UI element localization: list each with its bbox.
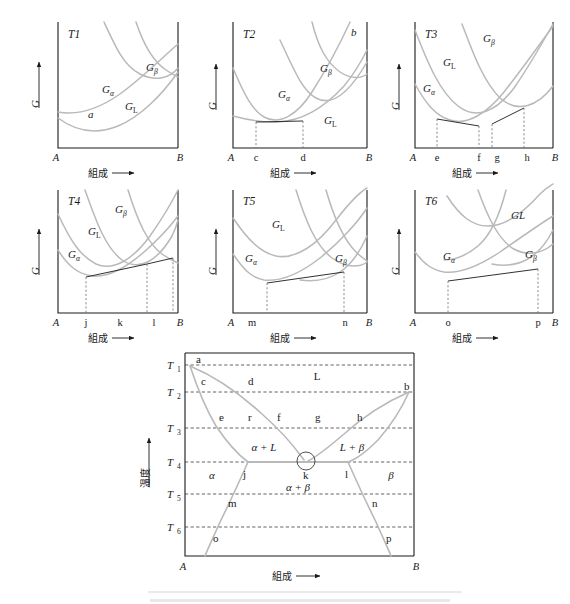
svg-text:α: α (451, 256, 456, 265)
caption-cropped (148, 592, 462, 602)
panel-T6-label-Galpha: G α (443, 250, 456, 265)
pd-yaxis-label: 温度 (139, 468, 151, 488)
panel-T2-label-GL: G L (324, 114, 337, 129)
panel-T4-common-tangent-left (86, 264, 147, 277)
panel-T3-tick-e: e (435, 152, 440, 163)
panel-T6-tick-o: o (445, 317, 450, 328)
panel-T6-endpoint-B: B (552, 317, 559, 328)
panel-T6-tick-p: p (535, 317, 540, 328)
panel-T5-endpoint-A: A (227, 317, 235, 328)
region-liquid: L (314, 370, 321, 382)
svg-text:T: T (167, 456, 174, 468)
panel-T1-xaxis-label: 組成 (88, 167, 134, 179)
panel-T3-gaxis: G (389, 64, 401, 110)
svg-text:β: β (327, 68, 332, 77)
panel-T1-gaxis-label: G (29, 100, 41, 108)
svg-text:G: G (68, 248, 76, 260)
panel-T6-endpoint-A: A (409, 317, 417, 328)
svg-text:G: G (483, 32, 491, 44)
svg-text:α: α (253, 258, 258, 267)
panel-T2-xaxis-label: 組成 (270, 167, 316, 179)
svg-text:α: α (110, 89, 115, 98)
svg-text:L: L (133, 106, 138, 115)
pd-point-r: r (248, 411, 252, 423)
panel-T6-label-Gbeta: G β (525, 248, 537, 263)
solvus-right (348, 462, 391, 556)
svg-text:2: 2 (177, 392, 181, 401)
svg-text:α: α (76, 254, 81, 263)
svg-text:4: 4 (177, 462, 181, 471)
panel-T2-tick-d: d (300, 152, 306, 163)
panel-T4-gaxis-label: G (29, 267, 41, 275)
svg-text:組成: 組成 (272, 570, 292, 582)
panel-T2-curve-GL (233, 50, 367, 122)
svg-text:G: G (320, 62, 328, 74)
pd-temp-tick-T3: T 3 (167, 422, 181, 437)
pd-point-n: n (372, 497, 378, 509)
svg-text:G: G (245, 252, 253, 264)
pd-point-j: j (242, 468, 246, 480)
svg-text:L: L (96, 231, 101, 240)
panel-T5: G T5 G L G α G β A m n B 組成 (206, 188, 373, 344)
panel-T3-label-GL: G L (443, 56, 456, 71)
pd-point-f: f (277, 411, 281, 423)
panel-T2: G T2 b G α G β G L A c d B 組成 (206, 22, 373, 179)
pd-point-e: e (219, 411, 224, 423)
panel-T6-curve-Gbeta (492, 230, 553, 265)
svg-text:β: β (532, 254, 537, 263)
panel-T5-label-Gbeta: G β (335, 252, 347, 267)
svg-text:1: 1 (177, 365, 181, 374)
region-liquid-plus-beta: L + β (339, 441, 365, 453)
svg-text:G: G (115, 203, 123, 215)
panel-T6-curve-Galpha (415, 216, 553, 272)
panel-T4-title: T4 (68, 195, 80, 207)
panel-T3-endpoint-B: B (552, 152, 559, 163)
panel-T3-tangent-alpha-L (437, 119, 479, 126)
svg-text:L: L (451, 62, 456, 71)
panel-T3-label-Gbeta: G β (483, 32, 495, 47)
svg-text:L: L (280, 224, 285, 233)
svg-text:T: T (167, 386, 174, 398)
svg-text:G: G (335, 252, 343, 264)
panel-T3-tick-g: g (494, 152, 500, 163)
svg-text:組成: 組成 (452, 167, 472, 179)
panel-T1-title: T1 (68, 28, 80, 40)
pd-temp-tick-T4: T 4 (167, 456, 181, 471)
svg-text:L: L (332, 120, 337, 129)
panel-T4-tick-k: k (117, 317, 123, 328)
panel-T3-tangent-L-beta (492, 108, 524, 124)
panel-T3-gaxis-label: G (389, 102, 401, 110)
svg-text:組成: 組成 (452, 332, 472, 344)
eutectic-point-marker (297, 452, 315, 470)
pd-point-a: a (196, 353, 201, 365)
panel-T6-gaxis: G (389, 229, 401, 275)
pd-yaxis: 温度 (139, 438, 151, 488)
svg-text:G: G (443, 56, 451, 68)
phase-diagram: T 1 T 2 T 3 T 4 T 5 T 6 温度 a b c (139, 353, 420, 582)
panel-T1-endpoint-B: B (177, 152, 184, 163)
panel-T1-label-Galpha: G α (102, 83, 115, 98)
svg-text:β: β (122, 209, 127, 218)
panel-T5-gaxis: G (206, 229, 218, 275)
pd-endpoint-A: A (179, 561, 187, 572)
svg-text:組成: 組成 (270, 332, 290, 344)
figure-root: G T1 a G α G β G L A B 組成 (0, 0, 570, 604)
panel-T6-title: T6 (425, 195, 437, 207)
panel-T5-curve-Galpha (233, 208, 367, 280)
pd-point-c: c (201, 375, 206, 387)
panel-T5-xaxis-label: 組成 (270, 332, 316, 344)
panel-T5-label-Galpha: G α (245, 252, 258, 267)
panel-T5-label-GL: G L (272, 218, 285, 233)
pd-point-o: o (213, 532, 219, 544)
panel-T4-gaxis: G (29, 229, 41, 275)
svg-text:T: T (167, 422, 174, 434)
pd-point-h: h (357, 411, 363, 423)
svg-text:T: T (167, 359, 174, 371)
svg-text:β: β (153, 67, 158, 76)
panel-T2-endpoint-B: B (366, 152, 373, 163)
pd-endpoint-B: B (413, 561, 420, 572)
panel-T1-label-GL: G L (125, 100, 138, 115)
panel-T2-label-Galpha: G α (278, 88, 291, 103)
svg-text:G: G (324, 114, 332, 126)
panel-T5-endpoint-B: B (366, 317, 373, 328)
